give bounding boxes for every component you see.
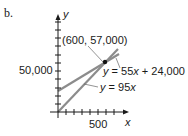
chart-figure: b.	[0, 0, 188, 136]
x-axis	[50, 109, 129, 115]
intersection-label: (600, 57,000)	[62, 35, 127, 46]
eq2-x: x	[130, 81, 136, 93]
leader-point	[88, 46, 103, 62]
intersection-point	[103, 60, 107, 64]
eq1-mid: = 55	[109, 65, 134, 77]
eq1-tail: + 24,000	[139, 65, 185, 77]
x-tick-label-500: 500	[89, 119, 107, 130]
y-axis	[55, 14, 61, 118]
eq2-mid: = 95	[106, 81, 131, 93]
equation-label-1: y = 55x + 24,000	[103, 66, 185, 77]
y-axis-label: y	[63, 9, 69, 20]
equation-label-2: y = 95x	[100, 82, 136, 93]
leader-eq2	[84, 84, 98, 87]
y-tick-label-50000: 50,000	[19, 65, 53, 76]
x-axis-label: x	[125, 117, 131, 128]
